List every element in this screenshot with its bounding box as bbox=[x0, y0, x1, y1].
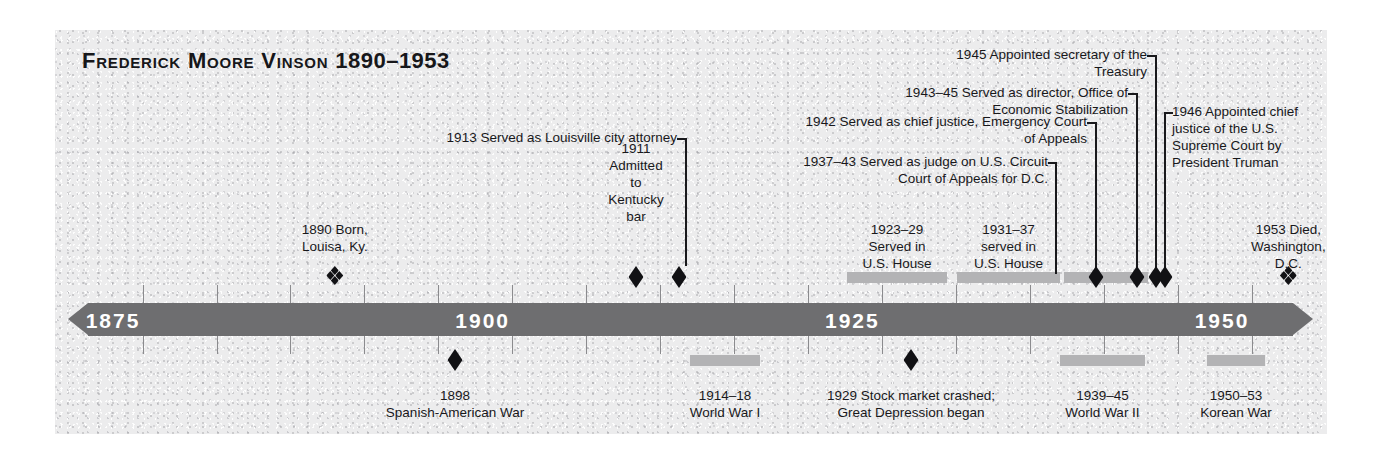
annotation-born: 1890 Born, Louisa, Ky. bbox=[302, 221, 368, 255]
annotation-us-house-2: 1931–37 served in U.S. House bbox=[974, 221, 1043, 272]
axis-tick bbox=[217, 285, 218, 303]
annotation-emergency-court-chief-justice: 1942 Served as chief justice, Emergency … bbox=[801, 113, 1087, 147]
axis-tick bbox=[512, 336, 513, 354]
axis-year-label-1950: 1950 bbox=[1195, 309, 1250, 333]
axis-tick bbox=[808, 285, 809, 303]
annotation-louisville-city-attorney: 1913 Served as Louisville city attorney bbox=[447, 129, 677, 146]
axis-tick bbox=[956, 336, 957, 354]
marker-born bbox=[326, 266, 343, 285]
annotation-chief-justice-supreme-court: 1946 Appointed chief justice of the U.S.… bbox=[1172, 103, 1327, 171]
axis-year-label-1925: 1925 bbox=[825, 309, 880, 333]
leader-line-vertical bbox=[1095, 122, 1097, 270]
axis-tick bbox=[438, 285, 439, 303]
axis-tick bbox=[1104, 336, 1105, 354]
axis-tick bbox=[1252, 285, 1253, 303]
title-person-name: Frederick Moore Vinson bbox=[82, 48, 328, 73]
axis-tick bbox=[290, 336, 291, 354]
annotation-world-war-i: 1914–18 World War I bbox=[690, 387, 761, 421]
annotation-economic-stabilization-director: 1943–45 Served as director, Office of Ec… bbox=[883, 84, 1128, 118]
axis-arrow-right-icon bbox=[1293, 303, 1313, 335]
axis-tick bbox=[364, 336, 365, 354]
axis-tick bbox=[512, 285, 513, 303]
annotation-korean-war: 1950–53 Korean War bbox=[1200, 387, 1272, 421]
span-us-house-2 bbox=[957, 272, 1060, 283]
axis-tick bbox=[1104, 285, 1105, 303]
span-korean-war bbox=[1207, 355, 1265, 366]
span-world-war-ii bbox=[1060, 355, 1145, 366]
title-life-years: 1890–1953 bbox=[335, 48, 450, 73]
axis-tick bbox=[1030, 336, 1031, 354]
axis-tick bbox=[1030, 285, 1031, 303]
page-title: Frederick Moore Vinson 1890–1953 bbox=[82, 48, 450, 74]
annotation-kentucky-bar: 1911 Admitted to Kentucky bar bbox=[608, 140, 664, 225]
axis-tick bbox=[364, 285, 365, 303]
axis-tick bbox=[143, 285, 144, 303]
axis-tick bbox=[143, 336, 144, 354]
axis-tick bbox=[882, 285, 883, 303]
axis-year-label-1900: 1900 bbox=[455, 309, 510, 333]
leader-line-vertical bbox=[1136, 93, 1138, 270]
axis-tick bbox=[956, 285, 957, 303]
axis-tick bbox=[660, 285, 661, 303]
annotation-died: 1953 Died, Washington, D.C. bbox=[1251, 221, 1326, 272]
annotation-circuit-court-judge: 1937–43 Served as judge on U.S. Circuit … bbox=[803, 153, 1048, 187]
axis-year-label-1875: 1875 bbox=[86, 309, 141, 333]
axis-tick bbox=[734, 336, 735, 354]
leader-line-vertical bbox=[1155, 55, 1157, 270]
timeline-axis-bar bbox=[88, 303, 1293, 336]
axis-tick bbox=[882, 336, 883, 354]
axis-tick bbox=[660, 336, 661, 354]
axis-tick bbox=[290, 285, 291, 303]
annotation-us-house-1: 1923–29 Served in U.S. House bbox=[862, 221, 931, 272]
span-us-house-1 bbox=[847, 272, 947, 283]
annotation-spanish-american-war: 1898 Spanish-American War bbox=[386, 387, 524, 421]
marker-died bbox=[1280, 266, 1297, 285]
leader-line-vertical bbox=[1164, 112, 1166, 270]
axis-tick bbox=[586, 336, 587, 354]
annotation-stock-market-crash: 1929 Stock market crashed; Great Depress… bbox=[827, 387, 995, 421]
axis-tick bbox=[1252, 336, 1253, 354]
axis-tick bbox=[1178, 285, 1179, 303]
axis-tick bbox=[734, 285, 735, 303]
axis-tick bbox=[438, 336, 439, 354]
axis-tick bbox=[217, 336, 218, 354]
annotation-secretary-of-treasury: 1945 Appointed secretary of the Treasury bbox=[921, 46, 1147, 80]
axis-tick bbox=[586, 285, 587, 303]
leader-line-vertical bbox=[1055, 162, 1057, 274]
leader-line-vertical bbox=[685, 138, 687, 266]
annotation-world-war-ii: 1939–45 World War II bbox=[1065, 387, 1139, 421]
span-world-war-i bbox=[690, 355, 760, 366]
axis-tick bbox=[1178, 336, 1179, 354]
timeline-figure: Frederick Moore Vinson 1890–1953 1875190… bbox=[0, 0, 1373, 455]
axis-tick bbox=[808, 336, 809, 354]
